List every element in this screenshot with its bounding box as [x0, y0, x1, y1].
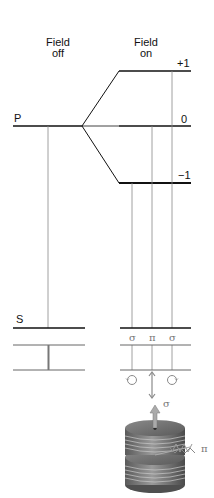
field-on-label: Field on — [126, 37, 166, 59]
circular-polarization-left-icon — [126, 376, 137, 385]
linear-polarization-arrow-icon — [149, 372, 155, 398]
sigma-left-label: σ — [129, 333, 136, 343]
m-zero-label: 0 — [181, 114, 187, 125]
circular-polarization-right-icon — [168, 376, 179, 385]
s-level-label: S — [16, 314, 23, 325]
spectrum-strip — [13, 345, 191, 370]
pi-label: π — [149, 333, 156, 343]
p-level — [13, 71, 119, 183]
field-off-line2: off — [38, 48, 78, 59]
sigma-right-label: σ — [169, 333, 176, 343]
p-level-label: P — [14, 113, 21, 124]
transition-lines — [48, 71, 172, 370]
magnet-coil-icon — [125, 405, 195, 493]
zeeman-diagram — [0, 0, 214, 498]
field-on-line2: on — [126, 48, 166, 59]
m-minus-one-label: −1 — [178, 170, 191, 181]
sublevels — [119, 71, 191, 183]
m-plus-one-label: +1 — [177, 58, 190, 69]
field-off-label: Field off — [38, 37, 78, 59]
sigma-emission-label: σ — [163, 399, 170, 409]
pi-emission-label: π — [201, 444, 208, 454]
